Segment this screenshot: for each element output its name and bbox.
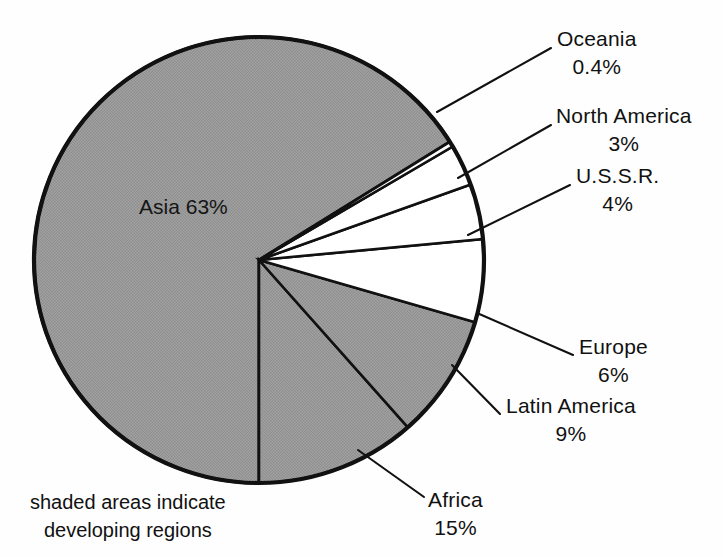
callout-label-oceania-name: Oceania xyxy=(557,27,637,50)
pie-chart-figure: Asia 63% Oceania 0.4% North America 3% U… xyxy=(0,0,723,557)
pie-chart-graphic xyxy=(0,0,723,557)
leader-line-north-america xyxy=(458,125,551,178)
slice-label-asia-name: Asia xyxy=(139,195,180,218)
callout-label-africa-name: Africa xyxy=(428,488,483,511)
callout-label-north-america-pct: 3% xyxy=(556,130,692,158)
callout-label-europe: Europe 6% xyxy=(579,333,648,388)
leader-line-europe xyxy=(477,313,573,355)
callout-label-latin-america: Latin America 9% xyxy=(506,392,636,447)
slice-label-asia: Asia 63% xyxy=(139,193,228,221)
callout-label-ussr: U.S.S.R. 4% xyxy=(576,162,659,217)
callout-label-latin-america-name: Latin America xyxy=(506,394,636,417)
chart-footnote-line2: developing regions xyxy=(44,519,212,541)
callout-label-europe-pct: 6% xyxy=(579,361,648,389)
callout-label-latin-america-pct: 9% xyxy=(506,420,636,448)
callout-label-europe-name: Europe xyxy=(579,335,648,358)
callout-label-ussr-name: U.S.S.R. xyxy=(576,164,659,187)
chart-footnote: shaded areas indicate developing regions xyxy=(30,489,226,544)
leader-line-latin-america xyxy=(452,365,500,414)
leader-line-oceania xyxy=(437,48,551,112)
chart-footnote-line1: shaded areas indicate xyxy=(30,491,226,513)
callout-label-ussr-pct: 4% xyxy=(576,190,659,218)
callout-label-africa-pct: 15% xyxy=(428,514,483,542)
slice-label-asia-pct: 63% xyxy=(186,195,228,218)
callout-label-north-america: North America 3% xyxy=(556,102,692,157)
leader-line-ussr xyxy=(468,185,570,235)
callout-label-oceania: Oceania 0.4% xyxy=(557,25,637,80)
callout-label-africa: Africa 15% xyxy=(428,486,483,541)
callout-label-north-america-name: North America xyxy=(556,104,692,127)
leader-line-africa xyxy=(358,450,424,497)
callout-label-oceania-pct: 0.4% xyxy=(557,53,637,81)
